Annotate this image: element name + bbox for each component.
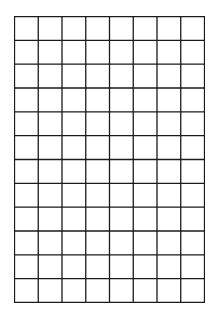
blank-grid (14, 16, 205, 303)
grid-lines (14, 16, 205, 303)
